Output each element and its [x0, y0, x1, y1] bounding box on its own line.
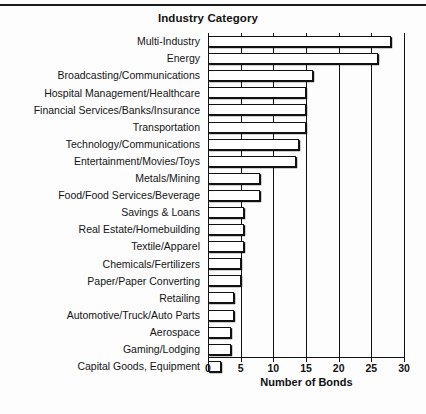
bar: [208, 241, 244, 252]
bar-row: [208, 101, 405, 118]
bar-row: [208, 118, 405, 135]
bar: [208, 224, 244, 235]
x-tick-label: 0: [205, 362, 211, 374]
bar-row: [208, 170, 405, 187]
plot-area: [208, 33, 405, 358]
category-label: Energy: [0, 50, 204, 67]
bar-row: [208, 238, 405, 255]
category-label: Financial Services/Banks/Insurance: [0, 101, 204, 118]
category-label: Chemicals/Fertilizers: [0, 255, 204, 272]
x-axis-tick-labels: 051015202530: [0, 362, 426, 376]
x-tick-label: 30: [398, 362, 410, 374]
bar-row: [208, 221, 405, 238]
category-label: Broadcasting/Communications: [0, 67, 204, 84]
x-tick-label: 20: [333, 362, 345, 374]
category-label: Transportation: [0, 118, 204, 135]
bar: [208, 36, 391, 47]
chart-title-text: Industry Category: [158, 12, 258, 24]
x-tick-label: 15: [300, 362, 312, 374]
category-label: Food/Food Services/Beverage: [0, 187, 204, 204]
bar-series: [208, 33, 405, 358]
category-label: Savings & Loans: [0, 204, 204, 221]
chart-title: Industry Category: [0, 12, 426, 24]
category-label: Real Estate/Homebuilding: [0, 221, 204, 238]
category-label: Aerospace: [0, 324, 204, 341]
category-label: Gaming/Lodging: [0, 341, 204, 358]
category-label: Metals/Mining: [0, 170, 204, 187]
bar-row: [208, 307, 405, 324]
bar: [208, 87, 306, 98]
category-label: Retailing: [0, 289, 204, 306]
bar: [208, 344, 231, 355]
bar: [208, 173, 260, 184]
x-axis-title: Number of Bonds: [208, 376, 405, 388]
bar-row: [208, 272, 405, 289]
bar: [208, 122, 306, 133]
bar-row: [208, 204, 405, 221]
bar: [208, 258, 241, 269]
bar: [208, 139, 299, 150]
x-tick-label: 10: [267, 362, 279, 374]
bar: [208, 292, 234, 303]
bar-row: [208, 255, 405, 272]
category-label: Technology/Communications: [0, 136, 204, 153]
category-label: Entertainment/Movies/Toys: [0, 153, 204, 170]
bar: [208, 275, 241, 286]
bar-chart: Industry Category Multi-IndustryEnergyBr…: [0, 0, 426, 414]
bar: [208, 190, 260, 201]
bar-row: [208, 67, 405, 84]
bar: [208, 207, 244, 218]
x-tick-label: 25: [365, 362, 377, 374]
bar: [208, 327, 231, 338]
bar: [208, 156, 296, 167]
bar-row: [208, 84, 405, 101]
category-label: Hospital Management/Healthcare: [0, 84, 204, 101]
bar-row: [208, 50, 405, 67]
bar: [208, 104, 306, 115]
bar-row: [208, 136, 405, 153]
category-label: Automotive/Truck/Auto Parts: [0, 307, 204, 324]
x-tick-label: 5: [238, 362, 244, 374]
category-label: Textile/Apparel: [0, 238, 204, 255]
category-axis-labels: Multi-IndustryEnergyBroadcasting/Communi…: [0, 33, 204, 358]
bar-row: [208, 324, 405, 341]
bar-row: [208, 153, 405, 170]
bar: [208, 53, 378, 64]
bar-row: [208, 33, 405, 50]
top-divider-rule: [0, 4, 426, 6]
bar: [208, 70, 313, 81]
category-label: Paper/Paper Converting: [0, 272, 204, 289]
bar-row: [208, 187, 405, 204]
bar-row: [208, 289, 405, 306]
category-label: Multi-Industry: [0, 33, 204, 50]
bar: [208, 310, 234, 321]
bar-row: [208, 341, 405, 358]
